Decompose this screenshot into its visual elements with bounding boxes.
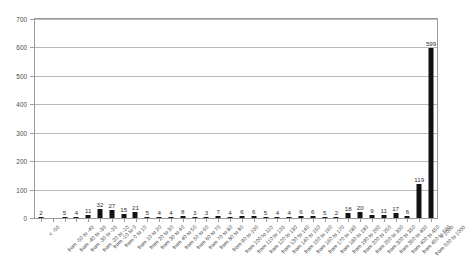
- bar-slot[interactable]: 4: [271, 19, 283, 218]
- bar[interactable]: [358, 212, 363, 218]
- y-tick-label: 0: [23, 215, 27, 222]
- bar[interactable]: [393, 213, 398, 218]
- bar-value-label: 6: [406, 208, 409, 215]
- bar[interactable]: [157, 217, 162, 218]
- bar-slot[interactable]: 599: [425, 19, 437, 218]
- bar-slot[interactable]: 6: [295, 19, 307, 218]
- bar-slot[interactable]: 4: [153, 19, 165, 218]
- bar-value-label: 3: [205, 209, 208, 216]
- x-tick-mark: [112, 219, 113, 222]
- bar-slot[interactable]: 4: [283, 19, 295, 218]
- bar[interactable]: [417, 184, 422, 218]
- x-tick-mark: [41, 219, 42, 222]
- x-axis: < -50from -50 to -40from -40 to -30from …: [35, 219, 437, 279]
- bar[interactable]: [192, 217, 197, 218]
- bar-slot[interactable]: 20: [354, 19, 366, 218]
- bar[interactable]: [334, 217, 339, 218]
- bar-value-label: 5: [323, 209, 326, 216]
- bar-slot[interactable]: 4: [224, 19, 236, 218]
- bar[interactable]: [216, 216, 221, 218]
- bar[interactable]: [38, 217, 43, 218]
- bar-value-label: 3: [193, 209, 196, 216]
- bar-slot[interactable]: 5: [260, 19, 272, 218]
- bar-slot[interactable]: 27: [106, 19, 118, 218]
- x-tick-mark: [183, 219, 184, 222]
- bar-slot[interactable]: 4: [70, 19, 82, 218]
- bar[interactable]: [381, 215, 386, 218]
- y-tick-label: 500: [16, 72, 27, 79]
- x-tick-mark: [124, 219, 125, 222]
- x-tick-mark: [325, 219, 326, 222]
- bar-value-label: 32: [97, 201, 104, 208]
- bar[interactable]: [62, 217, 67, 218]
- bar[interactable]: [109, 210, 114, 218]
- bar[interactable]: [322, 217, 327, 218]
- x-tick-mark: [289, 219, 290, 222]
- bar-slot[interactable]: 21: [130, 19, 142, 218]
- y-tick-label: 100: [16, 186, 27, 193]
- bar[interactable]: [263, 217, 268, 218]
- x-tick-mark: [230, 219, 231, 222]
- bar-slot[interactable]: [47, 19, 59, 218]
- x-tick-mark: [348, 219, 349, 222]
- x-tick-mark: [136, 219, 137, 222]
- bar-slot[interactable]: 5: [141, 19, 153, 218]
- bar[interactable]: [405, 216, 410, 218]
- bar-value-label: 8: [181, 208, 184, 215]
- bar[interactable]: [239, 216, 244, 218]
- bar-slot[interactable]: 4: [165, 19, 177, 218]
- bar[interactable]: [168, 217, 173, 218]
- bar-slot[interactable]: 6: [248, 19, 260, 218]
- bar-value-label: 4: [228, 209, 231, 216]
- bar-slot[interactable]: 17: [390, 19, 402, 218]
- bar-slot[interactable]: 6: [402, 19, 414, 218]
- bar-slot[interactable]: 2: [331, 19, 343, 218]
- bar-slot[interactable]: 3: [201, 19, 213, 218]
- bar[interactable]: [275, 217, 280, 218]
- x-tick-mark: [372, 219, 373, 222]
- bar[interactable]: [369, 215, 374, 218]
- bar[interactable]: [121, 214, 126, 218]
- bar-slot[interactable]: 3: [189, 19, 201, 218]
- bar-slot[interactable]: 11: [82, 19, 94, 218]
- y-tick-label: 300: [16, 129, 27, 136]
- bar-slot[interactable]: 32: [94, 19, 106, 218]
- x-tick-mark: [147, 219, 148, 222]
- bar-slot[interactable]: 11: [378, 19, 390, 218]
- bar[interactable]: [204, 217, 209, 218]
- bar-value-label: 5: [264, 209, 267, 216]
- bar-value-label: 6: [240, 208, 243, 215]
- bars-layer: 2541132271521544833746654466521820911176…: [35, 19, 437, 218]
- bar[interactable]: [299, 216, 304, 218]
- bar[interactable]: [180, 216, 185, 218]
- bar[interactable]: [346, 213, 351, 218]
- bar[interactable]: [98, 209, 103, 218]
- bar[interactable]: [310, 216, 315, 218]
- x-tick-mark: [53, 219, 54, 222]
- bar[interactable]: [133, 212, 138, 218]
- x-tick-label: < -50: [47, 224, 60, 237]
- bar-value-label: 2: [335, 209, 338, 216]
- bar[interactable]: [86, 215, 91, 218]
- bar-value-label: 4: [169, 209, 172, 216]
- bar[interactable]: [429, 48, 434, 218]
- bar-slot[interactable]: 6: [307, 19, 319, 218]
- bar[interactable]: [251, 216, 256, 218]
- bar-slot[interactable]: 9: [366, 19, 378, 218]
- bar-slot[interactable]: 7: [212, 19, 224, 218]
- bar-value-label: 27: [108, 202, 115, 209]
- bar-slot[interactable]: 6: [236, 19, 248, 218]
- bar-slot[interactable]: 8: [177, 19, 189, 218]
- bar-value-label: 4: [276, 209, 279, 216]
- bar-slot[interactable]: 15: [118, 19, 130, 218]
- bar-slot[interactable]: 5: [59, 19, 71, 218]
- bar-slot[interactable]: 5: [319, 19, 331, 218]
- bar[interactable]: [145, 217, 150, 218]
- bar-slot[interactable]: 119: [413, 19, 425, 218]
- bar-slot[interactable]: 2: [35, 19, 47, 218]
- bar-slot[interactable]: 18: [342, 19, 354, 218]
- bar[interactable]: [228, 217, 233, 218]
- bar[interactable]: [74, 217, 79, 218]
- y-tick-label: 600: [16, 44, 27, 51]
- bar[interactable]: [287, 217, 292, 218]
